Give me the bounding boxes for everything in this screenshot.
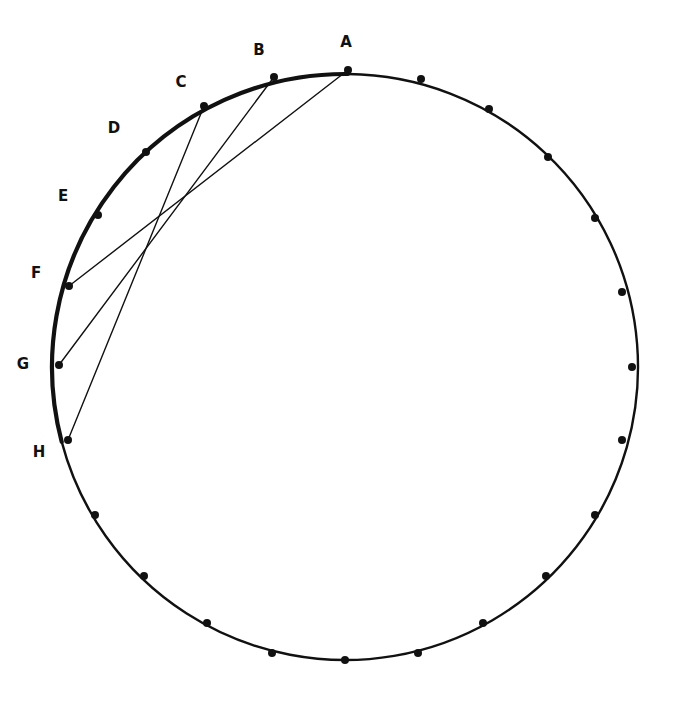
point-marker-unlabeled — [628, 363, 636, 371]
chord-group — [59, 70, 348, 440]
point-marker-unlabeled — [591, 511, 599, 519]
circle-chords-figure: ABCDEFGH — [0, 0, 679, 709]
point-marker-unlabeled — [140, 572, 148, 580]
vertex-label-H: H — [33, 443, 46, 461]
point-marker-unlabeled — [618, 436, 626, 444]
point-marker-unlabeled — [618, 288, 626, 296]
vertex-label-A: A — [340, 33, 352, 51]
point-marker-unlabeled — [591, 214, 599, 222]
point-marker-C — [200, 102, 208, 110]
point-marker-E — [94, 211, 102, 219]
point-marker-unlabeled — [268, 649, 276, 657]
geometry-diagram-canvas: ABCDEFGH — [0, 0, 679, 709]
circle-arc-thick — [52, 74, 348, 442]
vertex-label-F: F — [31, 264, 41, 282]
vertex-label-group: ABCDEFGH — [17, 33, 352, 461]
point-marker-G — [55, 361, 63, 369]
point-marker-unlabeled — [417, 75, 425, 83]
point-marker-unlabeled — [544, 153, 552, 161]
point-marker-unlabeled — [485, 105, 493, 113]
point-marker-unlabeled — [203, 619, 211, 627]
circle-outline-group — [52, 74, 638, 660]
point-marker-H — [64, 436, 72, 444]
point-marker-unlabeled — [91, 511, 99, 519]
vertex-label-C: C — [175, 73, 186, 91]
point-marker-unlabeled — [542, 572, 550, 580]
point-marker-A — [344, 66, 352, 74]
chord-CH — [68, 106, 204, 440]
point-marker-unlabeled — [414, 649, 422, 657]
vertex-label-E: E — [58, 187, 68, 205]
vertex-label-B: B — [253, 41, 264, 59]
point-marker-F — [65, 282, 73, 290]
point-marker-unlabeled — [479, 619, 487, 627]
point-marker-D — [142, 148, 150, 156]
chord-AF — [69, 70, 348, 286]
vertex-label-G: G — [17, 355, 29, 373]
point-marker-B — [270, 73, 278, 81]
circle-arc-thin — [62, 74, 638, 660]
vertex-label-D: D — [108, 119, 120, 137]
point-marker-unlabeled — [341, 656, 349, 664]
